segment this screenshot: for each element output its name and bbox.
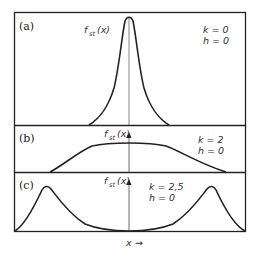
panel-a-ylabel-arg: (x) xyxy=(97,24,110,35)
panel-b-ylabel-arg: (x) xyxy=(117,128,130,139)
panel-c-curve xyxy=(15,186,245,231)
panel-c-h: h = 0 xyxy=(149,192,175,203)
panel-b-h: h = 0 xyxy=(198,145,224,156)
panel-a-label: (a) xyxy=(19,20,34,33)
panel-a-k: k = 0 xyxy=(203,24,229,35)
panel-a-ylabel-sub: st xyxy=(89,30,95,38)
panel-c-ylabel-arg: (x) xyxy=(117,175,130,186)
panel-b-label: (b) xyxy=(19,132,35,145)
panel-a: (a) f st (x) k = 0 h = 0 xyxy=(19,17,229,125)
panel-a-h: h = 0 xyxy=(203,35,229,46)
panel-b-k: k = 2 xyxy=(198,134,224,145)
panel-c-ylabel-sub: st xyxy=(109,181,115,189)
panel-b-ylabel-sub: st xyxy=(109,134,115,142)
panel-b: (b) f st (x) k = 2 h = 0 xyxy=(19,128,226,172)
panel-c-label: (c) xyxy=(19,179,34,192)
figure: (a) f st (x) k = 0 h = 0 (b) f st (x) k … xyxy=(0,0,260,253)
panel-c: (c) f st (x) k = 2,5 h = 0 xyxy=(15,175,245,231)
panel-c-k: k = 2,5 xyxy=(149,181,184,192)
x-axis-label: x → xyxy=(125,237,143,248)
